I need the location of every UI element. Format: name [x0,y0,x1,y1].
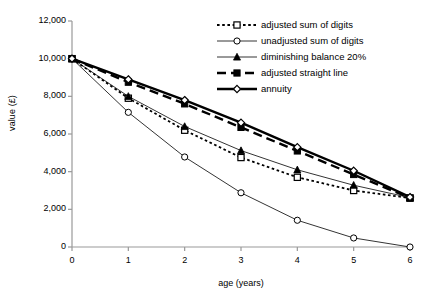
x-axis-title: age (years) [72,278,410,288]
x-tick-label: 4 [284,256,310,265]
legend-item-3[interactable]: adjusted straight line [216,65,422,81]
legend-item-4[interactable]: annuity [216,81,422,97]
legend-item-label: diminishing balance 20% [258,52,366,62]
legend-key-icon [216,81,258,97]
legend-item-2[interactable]: diminishing balance 20% [216,49,422,65]
legend-key-icon [216,33,258,49]
chart-legend: adjusted sum of digitsunadjusted sum of … [216,17,422,97]
legend-item-label: unadjusted sum of digits [258,36,363,46]
x-tick-label: 0 [59,256,85,265]
legend-item-label: adjusted straight line [258,68,348,78]
data-point-marker [234,38,240,44]
data-point-marker [294,174,300,180]
legend-key-icon [216,17,258,33]
data-point-marker [238,190,244,196]
legend-item-1[interactable]: unadjusted sum of digits [216,33,422,49]
data-point-marker [294,217,300,223]
x-tick-label: 2 [172,256,198,265]
data-point-marker [181,123,188,130]
data-point-marker [294,166,301,173]
data-point-marker [407,244,413,250]
legend-key-icon [216,49,258,65]
x-tick-label: 5 [341,256,367,265]
x-tick-label: 3 [228,256,254,265]
legend-item-label: adjusted sum of digits [258,20,353,30]
data-point-marker [234,70,240,76]
data-point-marker [238,154,244,160]
chart-container: value (£) 02,0004,0006,0008,00010,00012,… [0,0,422,301]
data-point-marker [234,22,240,28]
data-point-marker [351,235,357,241]
data-point-marker [238,147,245,154]
legend-key-icon [216,65,258,81]
legend-item-0[interactable]: adjusted sum of digits [216,17,422,33]
data-point-marker [233,85,240,92]
x-tick-label: 1 [115,256,141,265]
data-point-marker [182,154,188,160]
legend-item-label: annuity [258,84,292,94]
data-point-marker [125,109,131,115]
x-tick-label: 6 [397,256,422,265]
